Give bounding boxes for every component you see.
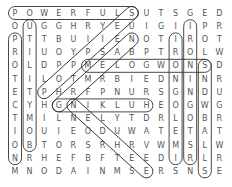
grid-letter[interactable]: L bbox=[110, 99, 124, 112]
grid-letter[interactable]: H bbox=[52, 86, 66, 99]
grid-letter[interactable]: U bbox=[66, 33, 80, 46]
grid-letter[interactable]: D bbox=[52, 165, 66, 178]
grid-letter[interactable]: I bbox=[169, 33, 183, 46]
grid-letter[interactable]: W bbox=[212, 46, 226, 59]
grid-letter[interactable]: W bbox=[37, 7, 51, 20]
grid-letter[interactable]: E bbox=[52, 7, 66, 20]
grid-letter[interactable]: G bbox=[212, 99, 226, 112]
grid-letter[interactable]: S bbox=[169, 7, 183, 20]
grid-letter[interactable]: N bbox=[96, 165, 110, 178]
grid-letter[interactable]: L bbox=[96, 112, 110, 125]
grid-letter[interactable]: U bbox=[212, 86, 226, 99]
grid-letter[interactable]: W bbox=[154, 59, 168, 72]
grid-letter[interactable]: W bbox=[212, 139, 226, 152]
grid-letter[interactable]: B bbox=[125, 46, 139, 59]
grid-letter[interactable]: R bbox=[8, 46, 22, 59]
grid-letter[interactable]: R bbox=[66, 7, 80, 20]
grid-letter[interactable]: F bbox=[66, 152, 80, 165]
grid-letter[interactable]: W bbox=[154, 139, 168, 152]
grid-letter[interactable]: O bbox=[8, 59, 22, 72]
grid-letter[interactable]: N bbox=[110, 86, 124, 99]
grid-letter[interactable]: O bbox=[169, 59, 183, 72]
grid-letter[interactable]: I bbox=[125, 73, 139, 86]
grid-letter[interactable]: N bbox=[66, 99, 80, 112]
grid-letter[interactable]: A bbox=[110, 46, 124, 59]
grid-letter[interactable]: L bbox=[23, 59, 37, 72]
grid-letter[interactable]: F bbox=[81, 7, 95, 20]
grid-letter[interactable]: A bbox=[139, 125, 153, 138]
grid-letter[interactable]: W bbox=[198, 99, 212, 112]
grid-letter[interactable]: B bbox=[52, 33, 66, 46]
grid-letter[interactable]: R bbox=[23, 152, 37, 165]
grid-letter[interactable]: G bbox=[154, 20, 168, 33]
grid-letter[interactable]: T bbox=[154, 33, 168, 46]
grid-letter[interactable]: H bbox=[139, 99, 153, 112]
grid-letter[interactable]: P bbox=[66, 59, 80, 72]
grid-letter[interactable]: O bbox=[52, 139, 66, 152]
grid-letter[interactable]: I bbox=[37, 112, 51, 125]
grid-letter[interactable]: P bbox=[139, 46, 153, 59]
grid-letter[interactable]: G bbox=[139, 59, 153, 72]
grid-letter[interactable]: U bbox=[96, 7, 110, 20]
grid-letter[interactable]: R bbox=[154, 165, 168, 178]
grid-letter[interactable]: I bbox=[23, 46, 37, 59]
grid-letter[interactable]: P bbox=[8, 33, 22, 46]
grid-letter[interactable]: I bbox=[81, 33, 95, 46]
grid-letter[interactable]: O bbox=[52, 73, 66, 86]
grid-letter[interactable]: L bbox=[198, 139, 212, 152]
grid-letter[interactable]: H bbox=[110, 139, 124, 152]
grid-letter[interactable]: D bbox=[37, 59, 51, 72]
grid-letter[interactable]: L bbox=[198, 152, 212, 165]
grid-letter[interactable]: T bbox=[110, 152, 124, 165]
grid-letter[interactable]: D bbox=[154, 73, 168, 86]
grid-letter[interactable]: R bbox=[212, 20, 226, 33]
grid-letter[interactable]: E bbox=[125, 152, 139, 165]
grid-letter[interactable]: L bbox=[37, 73, 51, 86]
grid-letter[interactable]: D bbox=[96, 125, 110, 138]
grid-letter[interactable]: T bbox=[212, 33, 226, 46]
grid-letter[interactable]: E bbox=[8, 86, 22, 99]
grid-letter[interactable]: O bbox=[37, 165, 51, 178]
grid-letter[interactable]: I bbox=[81, 99, 95, 112]
grid-letter[interactable]: E bbox=[52, 152, 66, 165]
grid-letter[interactable]: K bbox=[96, 99, 110, 112]
grid-letter[interactable]: G bbox=[169, 86, 183, 99]
grid-letter[interactable]: H bbox=[37, 152, 51, 165]
grid-letter[interactable]: W bbox=[125, 125, 139, 138]
grid-letter[interactable]: T bbox=[66, 73, 80, 86]
grid-letter[interactable]: G bbox=[52, 99, 66, 112]
grid-letter[interactable]: R bbox=[212, 73, 226, 86]
grid-letter[interactable]: M bbox=[23, 112, 37, 125]
grid-letter[interactable]: R bbox=[183, 152, 197, 165]
grid-letter[interactable]: I bbox=[183, 73, 197, 86]
grid-letter[interactable]: R bbox=[96, 139, 110, 152]
grid-letter[interactable]: E bbox=[198, 7, 212, 20]
grid-letter[interactable]: T bbox=[37, 139, 51, 152]
grid-letter[interactable]: M bbox=[81, 73, 95, 86]
grid-letter[interactable]: A bbox=[66, 165, 80, 178]
grid-letter[interactable]: G bbox=[52, 20, 66, 33]
grid-letter[interactable]: T bbox=[212, 125, 226, 138]
grid-letter[interactable]: E bbox=[154, 99, 168, 112]
grid-letter[interactable]: R bbox=[154, 112, 168, 125]
grid-letter[interactable]: O bbox=[198, 33, 212, 46]
grid-letter[interactable]: O bbox=[125, 59, 139, 72]
grid-letter[interactable]: H bbox=[37, 99, 51, 112]
grid-letter[interactable]: L bbox=[110, 7, 124, 20]
grid-letter[interactable]: R bbox=[212, 152, 226, 165]
grid-letter[interactable]: M bbox=[81, 59, 95, 72]
grid-letter[interactable]: Y bbox=[96, 20, 110, 33]
grid-letter[interactable]: O bbox=[183, 46, 197, 59]
grid-letter[interactable]: D bbox=[139, 112, 153, 125]
grid-letter[interactable]: I bbox=[183, 20, 197, 33]
grid-letter[interactable]: Y bbox=[110, 112, 124, 125]
grid-letter[interactable]: U bbox=[125, 20, 139, 33]
grid-letter[interactable]: L bbox=[52, 112, 66, 125]
grid-letter[interactable]: E bbox=[110, 20, 124, 33]
grid-letter[interactable]: H bbox=[66, 20, 80, 33]
grid-letter[interactable]: I bbox=[169, 152, 183, 165]
grid-letter[interactable]: T bbox=[23, 86, 37, 99]
grid-letter[interactable]: I bbox=[8, 125, 22, 138]
grid-letter[interactable]: R bbox=[183, 33, 197, 46]
grid-letter[interactable]: F bbox=[96, 152, 110, 165]
